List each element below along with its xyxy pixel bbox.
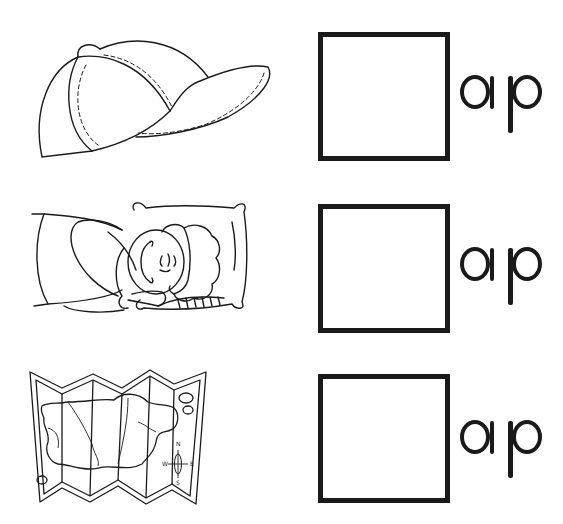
letter-a-glyph (460, 75, 497, 133)
word-ending-1: ap (460, 75, 550, 145)
worksheet-row-nap: ap (0, 180, 563, 350)
word-ending-3: ap (460, 420, 550, 490)
answer-box-2[interactable] (318, 204, 450, 333)
letter-p-glyph (505, 75, 542, 133)
baseball-cap-icon (28, 33, 268, 161)
answer-box-3[interactable] (318, 374, 450, 503)
sleeping-child-icon (28, 200, 248, 312)
letter-a-glyph (460, 247, 497, 305)
compass-west-label: W (162, 460, 168, 467)
compass-east-label: E (190, 460, 194, 467)
word-ending-glyphs (460, 247, 542, 305)
word-ending-glyphs (460, 420, 542, 478)
compass-south-label: S (176, 479, 180, 486)
letter-p-glyph (505, 247, 542, 305)
worksheet-row-cap: ap (0, 0, 563, 180)
letter-p-glyph (505, 420, 542, 478)
worksheet-row-map: N W E S ap (0, 350, 563, 524)
compass-north-label: N (176, 440, 181, 447)
word-ending-glyphs (460, 75, 542, 133)
letter-a-glyph (460, 420, 497, 478)
answer-box-1[interactable] (318, 32, 450, 161)
word-ending-2: ap (460, 247, 550, 317)
phonics-worksheet: ap (0, 0, 563, 524)
folded-map-icon: N W E S (28, 368, 208, 508)
